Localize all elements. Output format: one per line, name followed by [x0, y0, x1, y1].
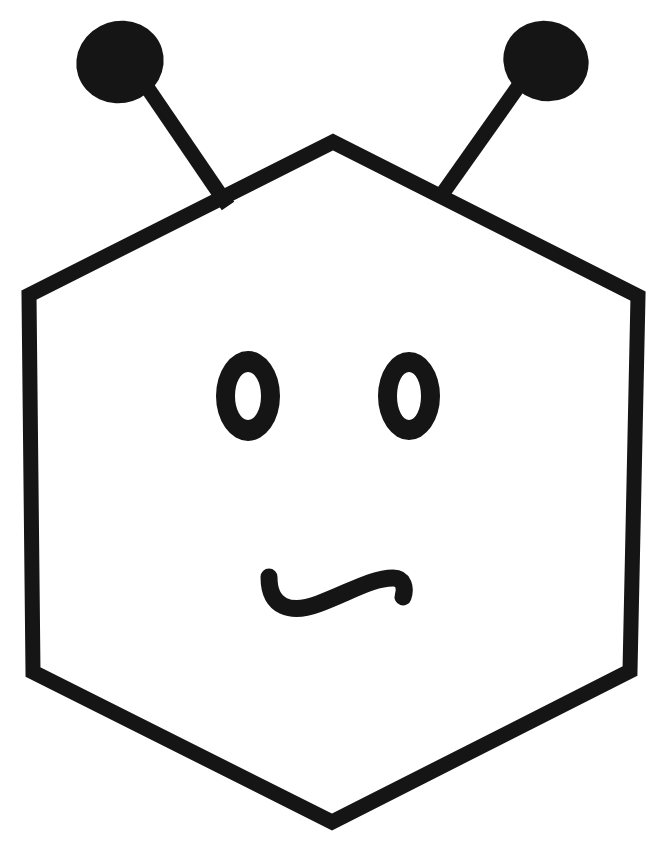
background — [0, 0, 666, 855]
artwork-canvas: Hexagonal Robot Bug Face Black line-art … — [0, 0, 666, 855]
robot-bug-face-illustration — [0, 0, 666, 855]
